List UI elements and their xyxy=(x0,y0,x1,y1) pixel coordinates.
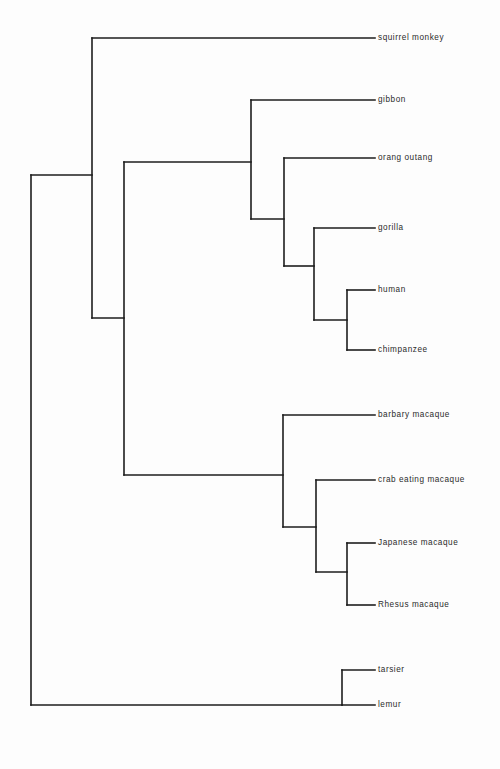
tip-label-gorilla: gorilla xyxy=(378,223,404,232)
tip-label-human: human xyxy=(378,285,406,294)
tip-label-orang-outang: orang outang xyxy=(378,153,433,162)
tip-label-squirrel-monkey: squirrel monkey xyxy=(378,33,444,42)
tip-label-rhesus-macaque: Rhesus macaque xyxy=(378,600,449,609)
tip-label-layer: squirrel monkeygibbonorang outanggorilla… xyxy=(378,33,465,709)
branch-layer xyxy=(31,38,375,705)
tip-label-tarsier: tarsier xyxy=(378,665,405,674)
tip-label-lemur: lemur xyxy=(378,700,401,709)
tip-label-japanese-macaque: Japanese macaque xyxy=(378,538,458,547)
tip-label-gibbon: gibbon xyxy=(378,95,406,104)
tip-label-chimpanzee: chimpanzee xyxy=(378,345,428,354)
tip-label-crab-eating-macaque: crab eating macaque xyxy=(378,475,465,484)
phylogenetic-tree-svg: squirrel monkeygibbonorang outanggorilla… xyxy=(0,0,500,769)
tip-label-barbary-macaque: barbary macaque xyxy=(378,410,450,419)
phylogenetic-tree-canvas: squirrel monkeygibbonorang outanggorilla… xyxy=(0,0,500,769)
